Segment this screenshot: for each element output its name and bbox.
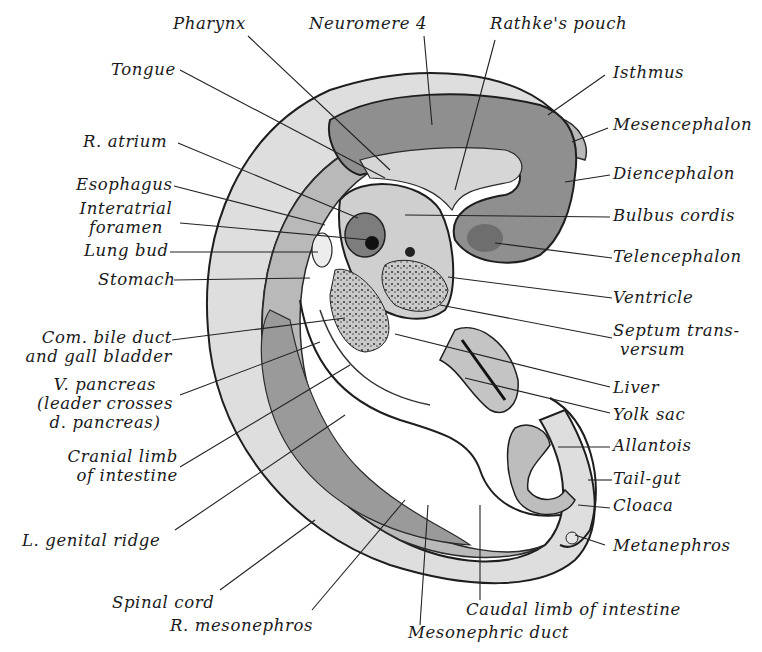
label-pharynx: Pharynx xyxy=(173,14,246,33)
label-caudal-limb: Caudal limb of intestine xyxy=(466,600,681,619)
label-bile-line2: and gall bladder xyxy=(14,347,172,366)
label-lung-bud: Lung bud xyxy=(84,241,169,260)
label-cranial-line2: of intestine xyxy=(40,466,178,485)
label-esophagus: Esophagus xyxy=(76,175,173,194)
telencephalon-shape xyxy=(467,224,503,252)
label-bile-line1: Com. bile duct xyxy=(14,328,172,347)
label-r-atrium: R. atrium xyxy=(83,132,167,151)
label-isthmus: Isthmus xyxy=(613,63,684,82)
lung-bud-shape xyxy=(312,233,332,267)
label-ventricle: Ventricle xyxy=(613,288,693,307)
label-yolk-sac: Yolk sac xyxy=(613,405,685,424)
label-stomach: Stomach xyxy=(98,270,175,289)
label-tail-gut: Tail-gut xyxy=(613,469,681,488)
label-septum-line2: versum xyxy=(613,340,740,359)
label-bulbus-cordis: Bulbus cordis xyxy=(613,206,735,225)
ventricle-opening xyxy=(405,247,415,257)
label-septum-transversum: Septum trans- versum xyxy=(613,321,740,359)
label-cranial-limb: Cranial limb of intestine xyxy=(40,447,178,485)
interatrial-foramen-shape xyxy=(365,236,379,250)
label-telencephalon: Telencephalon xyxy=(613,247,742,266)
label-septum-line1: Septum trans- xyxy=(613,321,740,340)
label-cloaca: Cloaca xyxy=(613,496,673,515)
label-l-genital-ridge: L. genital ridge xyxy=(22,531,160,550)
label-r-mesonephros: R. mesonephros xyxy=(170,616,313,635)
label-com-bile-duct: Com. bile duct and gall bladder xyxy=(14,328,172,366)
label-allantois: Allantois xyxy=(613,436,692,455)
label-mesencephalon: Mesencephalon xyxy=(613,115,752,134)
label-interatrial-line1: Interatrial xyxy=(78,199,174,218)
yolk-sac-shape xyxy=(440,328,518,413)
label-spinal-cord: Spinal cord xyxy=(112,593,214,612)
label-interatrial-foramen: Interatrial foramen xyxy=(78,199,174,237)
label-metanephros: Metanephros xyxy=(613,536,731,555)
label-neuromere-4: Neuromere 4 xyxy=(309,14,427,33)
embryo-diagram: Pharynx Neuromere 4 Rathke's pouch Tongu… xyxy=(0,0,762,652)
label-diencephalon: Diencephalon xyxy=(613,164,735,183)
label-cranial-line1: Cranial limb xyxy=(40,447,178,466)
label-tongue: Tongue xyxy=(111,60,176,79)
label-mesonephric-duct: Mesonephric duct xyxy=(408,623,569,642)
label-vpancreas-line1: V. pancreas xyxy=(34,375,176,394)
label-liver: Liver xyxy=(613,378,659,397)
label-rathkes-pouch: Rathke's pouch xyxy=(490,14,627,33)
label-vpancreas-line3: d. pancreas) xyxy=(34,413,176,432)
label-interatrial-line2: foramen xyxy=(78,218,174,237)
atrium-shape xyxy=(345,213,385,257)
metanephros-shape xyxy=(566,532,578,544)
label-v-pancreas: V. pancreas (leader crosses d. pancreas) xyxy=(34,375,176,432)
label-vpancreas-line2: (leader crosses xyxy=(34,394,176,413)
